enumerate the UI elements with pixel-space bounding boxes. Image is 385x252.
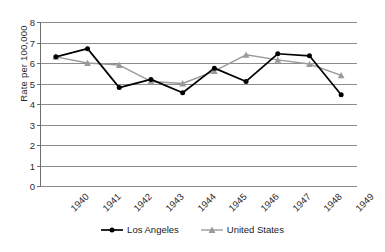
x-axis-tick-label: 1943	[163, 191, 186, 214]
series-line	[56, 49, 341, 95]
legend-label: United States	[227, 224, 284, 235]
y-axis-tick-label: 5	[30, 78, 35, 89]
data-point	[212, 66, 217, 71]
y-axis-tick-mark	[37, 186, 41, 187]
data-point	[275, 51, 280, 56]
x-axis-tick-label: 1945	[227, 191, 250, 214]
data-point	[180, 90, 185, 95]
y-axis-tick-label: 3	[30, 119, 35, 130]
y-axis-tick-label: 6	[30, 58, 35, 69]
series-los-angeles	[53, 46, 343, 97]
data-point	[244, 79, 249, 84]
series-line	[56, 55, 341, 84]
line-chart: Rate per 100,000 012345678 1940194119421…	[0, 0, 385, 252]
x-axis-tick-label: 1942	[131, 191, 154, 214]
gridline	[40, 186, 357, 187]
x-axis-tick-label: 1946	[258, 191, 281, 214]
data-point	[339, 92, 344, 97]
legend-label: Los Angeles	[127, 224, 179, 235]
x-axis-tick-label: 1941	[100, 191, 123, 214]
x-axis-tick-label: 1948	[322, 191, 345, 214]
x-axis-tick-label: 1947	[290, 191, 313, 214]
data-point	[53, 54, 58, 59]
data-point	[117, 85, 122, 90]
data-point	[85, 46, 90, 51]
legend-item[interactable]: United States	[201, 224, 284, 235]
data-point	[307, 53, 312, 58]
legend-item[interactable]: Los Angeles	[101, 224, 179, 235]
series-layer	[40, 22, 357, 186]
legend-swatch-triangle-icon	[201, 225, 223, 235]
legend-swatch-circle-icon	[101, 225, 123, 235]
y-axis-tick-label: 1	[30, 160, 35, 171]
data-point	[148, 77, 153, 82]
y-axis-title: Rate per 100,000	[18, 0, 29, 139]
y-axis-tick-label: 2	[30, 140, 35, 151]
y-axis-tick-label: 8	[30, 17, 35, 28]
y-axis-tick-label: 0	[30, 181, 35, 192]
x-axis-tick-label: 1944	[195, 191, 218, 214]
chart-legend: Los AngelesUnited States	[0, 224, 385, 235]
y-axis-tick-label: 4	[30, 99, 35, 110]
y-axis-tick-label: 7	[30, 37, 35, 48]
x-axis-tick-label: 1949	[353, 191, 376, 214]
plot-area: 012345678	[40, 22, 357, 186]
x-axis-tick-label: 1940	[68, 191, 91, 214]
